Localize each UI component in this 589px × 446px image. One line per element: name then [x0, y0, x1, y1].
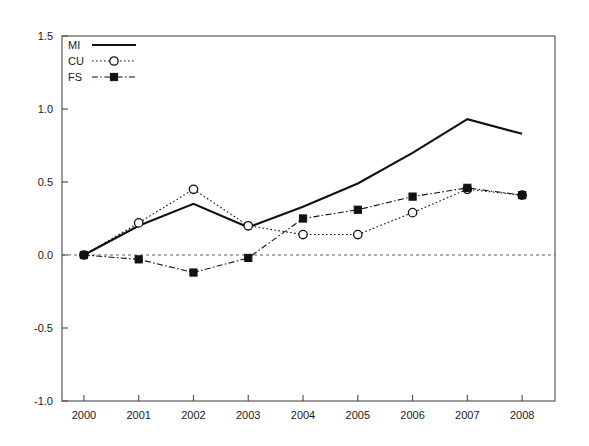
- data-point-fs: [80, 251, 87, 258]
- x-tick-label: 2000: [72, 409, 96, 421]
- data-point-cu: [244, 222, 252, 230]
- x-tick-label: 2004: [291, 409, 315, 421]
- legend-marker-cu: [110, 57, 118, 65]
- y-tick-label: 0.5: [38, 176, 53, 188]
- data-point-cu: [134, 219, 142, 227]
- data-point-cu: [408, 208, 416, 216]
- data-point-cu: [189, 185, 197, 193]
- plot-frame: [62, 36, 555, 401]
- y-tick-label: 1.0: [38, 103, 53, 115]
- y-tick-label: -0.5: [34, 322, 53, 334]
- x-tick-label: 2003: [236, 409, 260, 421]
- y-tick-label: 1.5: [38, 30, 53, 42]
- x-tick-label: 2008: [510, 409, 534, 421]
- line-chart: 1.51.00.50.0-0.5-1.020002001200220032004…: [0, 0, 589, 446]
- y-tick-label: 0.0: [38, 249, 53, 261]
- legend-label-mi: MI: [68, 39, 80, 51]
- data-point-fs: [135, 256, 142, 263]
- legend-marker-fs: [110, 73, 117, 80]
- data-point-fs: [299, 215, 306, 222]
- x-tick-label: 2005: [346, 409, 370, 421]
- x-tick-label: 2006: [400, 409, 424, 421]
- y-tick-label: -1.0: [34, 395, 53, 407]
- data-point-fs: [354, 206, 361, 213]
- x-tick-label: 2007: [455, 409, 479, 421]
- legend-label-cu: CU: [68, 55, 84, 67]
- legend-label-fs: FS: [68, 71, 82, 83]
- data-point-cu: [354, 230, 362, 238]
- data-point-fs: [409, 193, 416, 200]
- x-tick-label: 2001: [126, 409, 150, 421]
- data-point-fs: [464, 184, 471, 191]
- data-point-cu: [299, 230, 307, 238]
- x-tick-label: 2002: [181, 409, 205, 421]
- data-point-fs: [190, 269, 197, 276]
- data-point-fs: [519, 192, 526, 199]
- data-point-fs: [245, 254, 252, 261]
- chart-figure: 1.51.00.50.0-0.5-1.020002001200220032004…: [0, 0, 589, 446]
